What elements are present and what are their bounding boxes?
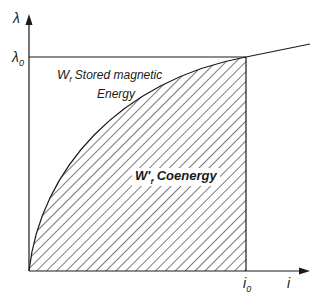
x-axis-arrow-icon [299,268,310,275]
y-axis-arrow-icon [26,14,33,25]
stored-energy-line2: Energy [57,87,162,102]
wf-symbol: W [57,67,69,82]
y-axis-label-text: λ [13,10,20,26]
lambda0-sub: 0 [19,58,24,68]
i0-sub: 0 [246,284,251,294]
stored-energy-line1: Stored magnetic [72,68,163,82]
lambda0-tick-label: λ0 [12,49,24,68]
wf-prime-symbol: W' [135,168,150,183]
x-axis-label: i [287,275,290,291]
lambda-i-diagram [0,0,331,304]
coenergy-label: W'f Coenergy [132,168,220,186]
i0-tick-label: i0 [243,275,251,294]
x-axis-label-text: i [287,275,290,291]
lambda0-main: λ [12,49,19,65]
coenergy-text: Coenergy [153,168,217,183]
y-axis-label: λ [13,10,20,26]
stored-energy-label: Wf Stored magnetic Energy [57,67,162,102]
